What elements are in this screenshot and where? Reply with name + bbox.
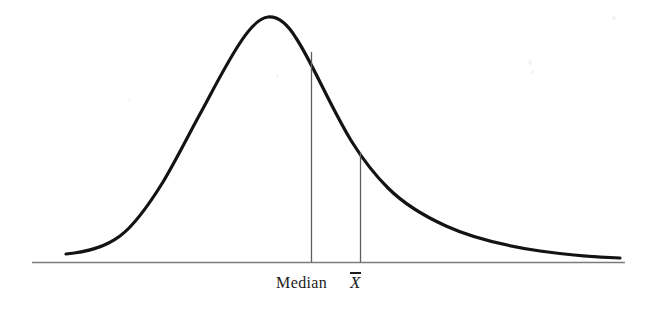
overbar-glyph: [350, 272, 361, 274]
mean-label: X: [350, 272, 360, 293]
median-label: Median: [276, 274, 327, 292]
density-curve: [66, 17, 620, 258]
mean-symbol: X: [350, 273, 360, 292]
skewed-distribution-figure: Median X: [0, 0, 645, 325]
